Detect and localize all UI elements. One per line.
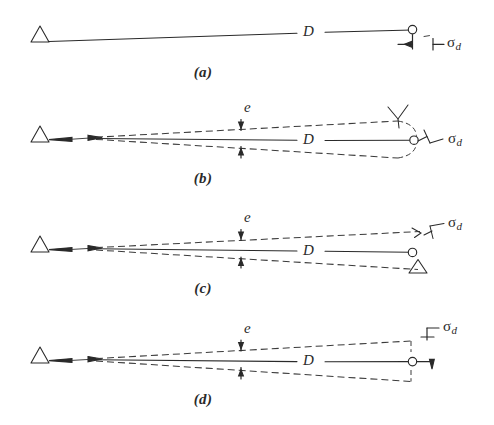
panel-c-e-arrow-lower [239,259,244,266]
panel-d-e-arrow-upper [239,343,244,350]
panel-a-sigma-arrowhead [405,41,412,47]
panel-b-error-bound-upper [96,121,398,137]
panel-b-wedge-cap-upper [398,121,417,137]
panel-b-apex-wedge [49,137,72,141]
panel-c-distance-line-right [325,251,410,252]
panel-d-endpoint-circle [408,357,416,365]
panel-c-distance-label: D [303,242,314,259]
panel-b-sigma-label: σd [448,130,462,148]
panel-c-sigma-label: σd [448,214,462,232]
panel-b-error-bound-lower [96,139,398,158]
panel-d-sigma-label: σd [443,318,457,336]
panel-c-sigma-bracket-arm [430,224,444,227]
panel-b-sigma-glyph: σ [448,130,456,146]
panel-a-drawing [31,25,444,50]
figure-container: .ln { stroke:#2a2a2a; stroke-width:1.05;… [0,0,494,425]
panel-b-angle-caret [388,105,408,119]
panel-c-sigma-glyph: σ [448,214,456,230]
panel-b-e-arrow-upper [239,122,244,129]
panel-c-endpoint-circle [408,248,416,256]
panel-c-secondary-triangle [409,260,427,274]
panel-b-endpoint-circle [410,136,418,144]
panel-a-distance-label: D [303,23,314,40]
panel-d-distance-line-left [96,360,297,362]
panel-a-distance-line-right [325,30,412,32]
panel-d-label: (d) [0,391,450,408]
panel-a-distance-line-left [49,33,297,41]
panel-c-sigma-bracket-tick [424,231,432,235]
panel-d-error-label: e [244,320,251,337]
panel-a-sigma-label: σd [447,34,461,52]
panel-a-sigma-subscript: d [455,40,461,52]
panel-d-origin-triangle [31,347,49,363]
panel-a-sigma-tick-dash [424,36,430,37]
panel-c-angle-caret [412,228,421,238]
panel-d-apex-wedge [49,359,72,363]
panel-c-drawing [31,224,444,274]
panel-c-apex-wedge [49,248,72,252]
panel-d-error-bound-lower [96,361,411,382]
panel-d-sigma-subscript: d [451,324,457,336]
panel-c-error-bound-lower [96,250,418,270]
panel-b-distance-line-left [96,138,297,140]
panel-b-drawing [31,105,443,158]
panel-b-sigma-subscript: d [456,136,462,148]
panel-d-sigma-arrowhead [430,359,435,369]
panel-c-error-bound-upper [96,232,420,248]
panel-c-label: (c) [0,280,450,297]
panel-d-sigma-glyph: σ [443,318,451,334]
panel-b-sigma-bracket-tick [418,137,427,142]
panel-c-e-arrow-upper [239,232,244,239]
panel-a-origin-triangle [31,26,49,42]
panel-b-distance-label: D [303,131,314,148]
panel-d-error-bound-upper [96,341,411,359]
panel-c-origin-triangle [31,236,49,252]
panel-b-error-label: e [244,99,251,116]
panel-a-endpoint-circle [408,25,416,33]
panel-b-sigma-bracket-arm [430,139,443,143]
panel-b-origin-triangle [31,126,49,142]
panel-d-drawing [31,328,439,382]
panel-b-angle-caret-stem [398,119,399,128]
panel-a-sigma-glyph: σ [447,34,455,50]
panel-c-error-label: e [244,209,251,226]
panel-a-label: (a) [0,64,450,81]
panel-c-sigma-subscript: d [456,220,462,232]
panel-b-e-arrow-lower [239,149,244,156]
panel-b-label: (b) [0,170,450,187]
panel-c-distance-line-left [96,249,297,251]
panel-d-distance-label: D [303,352,314,369]
